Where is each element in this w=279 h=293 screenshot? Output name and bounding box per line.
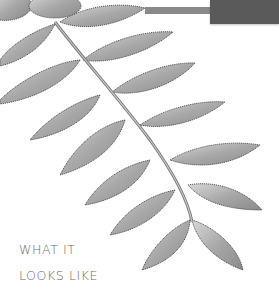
caption-line-2: LOOKS LIKE — [19, 263, 98, 289]
caption-line-1: WHAT IT — [19, 237, 98, 263]
caption: WHAT IT LOOKS LIKE — [19, 237, 98, 289]
